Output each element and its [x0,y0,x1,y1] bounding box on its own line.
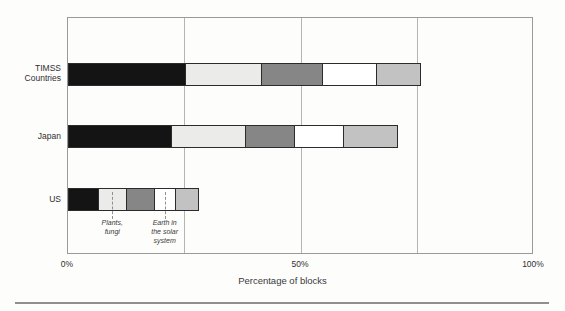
category-label: Japan [0,130,61,141]
segment-label: Plants, fungi [69,218,155,236]
plot-area: Most emphasized topicSecond most emphasi… [67,17,533,254]
category-label: US [0,193,61,204]
bar-segment [261,63,323,86]
segment-label: Earth in the solar system [122,218,208,246]
x-tick: 50% [291,259,308,269]
leader-line [112,192,113,219]
bar-segment [322,63,377,86]
x-tick: 0% [61,259,73,269]
leader-line [165,192,166,219]
bar-segment [126,188,155,211]
bottom-rule [15,302,549,304]
figure: Most emphasized topicSecond most emphasi… [0,0,565,311]
bar-segment [68,63,186,86]
category-label: TIMSS Countries [0,63,61,84]
bar-segment [171,125,247,148]
bar-segment [294,125,344,148]
bar-segment [376,63,421,86]
gridline [417,18,418,253]
x-axis-title: Percentage of blocks [238,275,327,286]
bar-segment [343,125,398,148]
bar-segment [68,125,172,148]
x-tick: 100% [522,259,544,269]
bar-segment [68,188,99,211]
bar-segment [175,188,199,211]
bar-segment [185,63,263,86]
bar-segment [245,125,295,148]
